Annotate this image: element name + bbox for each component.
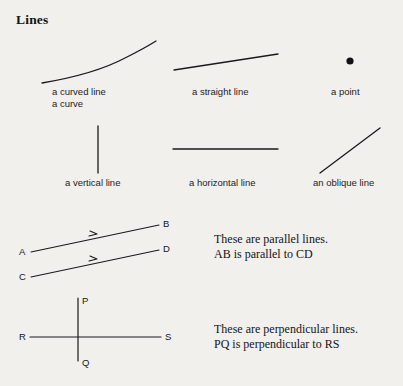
note-parallel-text-1: These are parallel lines.: [214, 232, 328, 246]
note-parallel-text-2: AB is parallel to CD: [214, 247, 328, 262]
straight-line-icon: [174, 54, 278, 70]
curved-line-icon: [42, 41, 156, 83]
note-perpendicular-text-1: These are perpendicular lines.: [214, 322, 358, 336]
arrowhead-ab-icon: [89, 231, 97, 236]
caption-horizontal-line: a horizontal line: [189, 177, 256, 189]
vertex-label-c: C: [19, 271, 26, 282]
caption-straight-line: a straight line: [192, 86, 249, 98]
arrowhead-cd-icon: [89, 256, 97, 261]
vertex-label-q: Q: [82, 357, 89, 368]
oblique-line-icon: [320, 128, 380, 173]
vertex-label-r: R: [19, 331, 26, 342]
caption-point-text: a point: [331, 86, 360, 97]
vertex-label-s: S: [165, 331, 171, 342]
vertex-label-p: P: [82, 295, 88, 306]
point-dot-icon: [346, 57, 353, 64]
caption-curved-line-text-2: a curve: [52, 98, 83, 109]
caption-oblique-line: an oblique line: [313, 177, 374, 189]
caption-vertical-line-text: a vertical line: [65, 177, 120, 188]
vertex-label-d: D: [163, 243, 170, 254]
note-perpendicular: These are perpendicular lines. PQ is per…: [214, 322, 358, 351]
note-parallel: These are parallel lines. AB is parallel…: [214, 232, 328, 261]
caption-vertical-line: a vertical line: [65, 177, 120, 189]
caption-horizontal-line-text: a horizontal line: [189, 177, 256, 188]
caption-curved-line: a curved line a curve: [52, 86, 106, 109]
caption-oblique-line-text: an oblique line: [313, 177, 374, 188]
lines-worksheet-page: Lines a curved line a curve a straight l…: [0, 0, 403, 386]
parallel-line-ab: [31, 225, 159, 252]
caption-straight-line-text: a straight line: [192, 86, 249, 97]
vertex-label-a: A: [19, 246, 25, 257]
caption-curved-line-text-1: a curved line: [52, 86, 106, 97]
caption-point: a point: [331, 86, 360, 98]
parallel-line-cd: [31, 250, 159, 277]
note-perpendicular-text-2: PQ is perpendicular to RS: [214, 337, 358, 352]
vertex-label-b: B: [163, 218, 169, 229]
